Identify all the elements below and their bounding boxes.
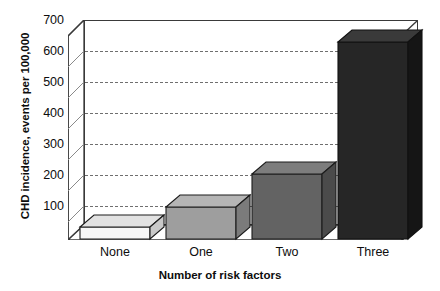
x-tick-none: None xyxy=(70,245,160,259)
y-tick-300: 300 xyxy=(30,137,64,151)
x-tick-two: Two xyxy=(242,245,332,259)
y-tick-700: 700 xyxy=(30,13,64,27)
y-tick-400: 400 xyxy=(30,106,64,120)
y-tick-500: 500 xyxy=(30,75,64,89)
y-tick-100: 100 xyxy=(30,199,64,213)
x-tick-three: Three xyxy=(328,245,418,259)
y-axis-tick-labels: 700 600 500 400 300 200 100 xyxy=(24,20,64,240)
x-tick-one: One xyxy=(156,245,246,259)
plot-area xyxy=(68,20,418,240)
y-tick-200: 200 xyxy=(30,168,64,182)
bar-three xyxy=(338,20,424,240)
y-tick-600: 600 xyxy=(30,44,64,58)
bar-one xyxy=(166,20,252,240)
bar-two xyxy=(252,20,338,240)
x-axis-title: Number of risk factors xyxy=(0,269,440,281)
bar-none xyxy=(80,20,166,240)
chart-figure: CHD incidence, events per 100,000 700 60… xyxy=(0,0,440,291)
